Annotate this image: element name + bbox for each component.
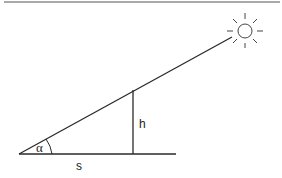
shadow-label: s [76,159,82,173]
angle-label: α [36,140,43,155]
height-label: h [139,117,146,131]
sun-icon [227,13,263,48]
sun-ray-line [19,37,232,154]
angle-arc [46,139,52,154]
sun-angle-diagram: α h s [0,0,282,178]
